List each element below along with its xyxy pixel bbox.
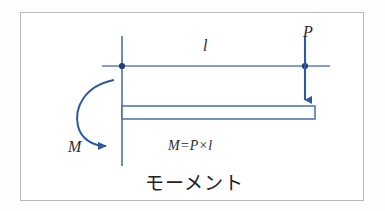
- diagram-root: P l M M=P×l モーメント: [0, 0, 385, 211]
- cantilever-beam: [122, 106, 315, 119]
- force-label-P: P: [303, 24, 313, 40]
- moment-label-M: M: [68, 139, 81, 155]
- moment-formula: M=P×l: [168, 138, 213, 154]
- moment-arc-arrow: [77, 80, 114, 146]
- dimension-node-left-dot: [119, 63, 125, 69]
- diagram-caption: モーメント: [145, 168, 244, 195]
- length-label-l: l: [203, 38, 207, 54]
